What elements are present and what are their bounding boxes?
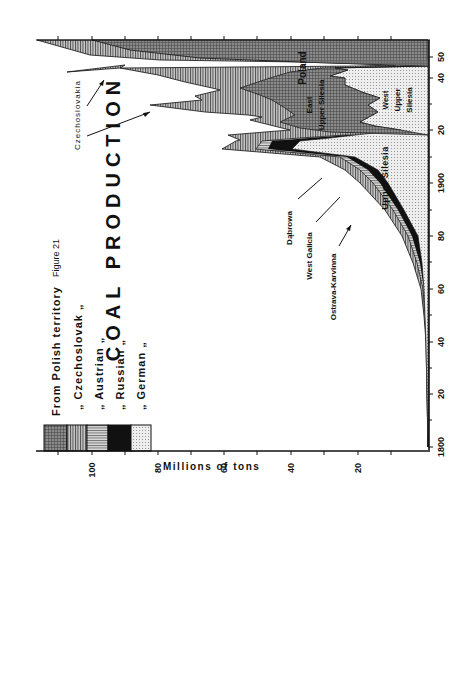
coal-production-chart: Figure 21 COAL PRODUCTION From Polish te… (0, 0, 451, 690)
label-dabrowa: Dąbrowa (285, 211, 294, 245)
year-tick-1880: 80 (436, 231, 446, 241)
label-ostrava-karvinna: Ostrava-Karvinna (329, 253, 338, 320)
value-tick-20: 20 (353, 463, 363, 473)
value-tick-100: 100 (87, 462, 97, 477)
legend-swatch-austrian (87, 425, 108, 451)
legend-label-austrian: „ Austrian „ (93, 337, 105, 410)
chart-title: COAL PRODUCTION (102, 75, 124, 361)
year-tick-1820: 20 (436, 389, 446, 399)
value-axis-label: Millions of tons (163, 461, 260, 472)
arrowhead-ostrava-karvinna (346, 225, 351, 231)
year-tick-1950: 50 (436, 52, 446, 62)
label-poland: Poland (297, 51, 308, 84)
label-west-upper-silesia-2: Upper (393, 88, 402, 111)
legend-label-polish: From Polish territory (50, 286, 62, 416)
legend-label-german: „ German „ (135, 341, 147, 410)
label-czechoslovakia: Czechoslovakia (73, 80, 82, 150)
year-tick-1840: 40 (436, 337, 446, 347)
legend-swatch-czechoslovak (67, 425, 87, 451)
legend-swatch-polish (44, 425, 67, 451)
pointer-west-galicia (316, 197, 340, 222)
label-west-galicia: West Galicia (305, 232, 314, 280)
value-tick-40: 40 (286, 463, 296, 473)
label-upper-silesia: Upper Silesia (380, 146, 390, 210)
year-tick-1920: 20 (436, 125, 446, 135)
legend-label-czechoslovak: „ Czechoslovak „ (72, 304, 84, 410)
legend: From Polish territory „ Czechoslovak „ „… (44, 286, 151, 451)
pointer-dabrowa (298, 178, 322, 199)
label-east-upper-silesia-1: East (305, 96, 314, 113)
year-tick-1800: 1800 (436, 437, 446, 457)
value-tick-80: 80 (153, 463, 163, 473)
legend-swatch-russian (108, 425, 131, 451)
legend-swatch-german (131, 425, 151, 451)
label-west-upper-silesia-3: Silesia (405, 87, 414, 113)
label-west-upper-silesia-1: West (381, 90, 390, 109)
arrowhead-czechoslovakia-2 (143, 112, 150, 117)
label-east-upper-silesia-2: Upper Silesia (317, 79, 326, 130)
year-tick-1900: 1900 (436, 173, 446, 193)
legend-label-russian: „ Russian „ (114, 339, 126, 410)
year-tick-1860: 60 (436, 284, 446, 294)
figure-number: Figure 21 (51, 239, 61, 277)
year-tick-1940: 40 (436, 73, 446, 83)
